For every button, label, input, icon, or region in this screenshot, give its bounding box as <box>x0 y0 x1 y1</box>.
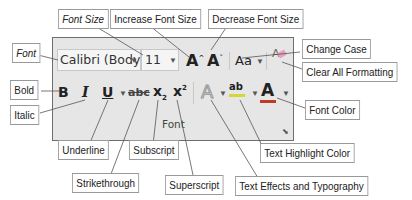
text-effects-button[interactable]: A <box>201 81 213 102</box>
bold-button[interactable]: B <box>58 84 69 100</box>
highlight-button[interactable]: ab <box>229 81 243 92</box>
callout-font-size: Font Size <box>58 9 108 29</box>
callout-text-effects: Text Effects and Typography <box>235 176 368 196</box>
callout-change-case: Change Case <box>302 39 371 59</box>
callout-font: Font <box>12 43 40 63</box>
clear-formatting-button[interactable]: A <box>272 47 286 60</box>
callout-font-color: Font Color <box>305 100 360 120</box>
font-size-value: 11 <box>145 52 161 67</box>
callout-decrease-font-size: Decrease Font Size <box>208 9 303 29</box>
underline-button[interactable]: U <box>102 84 113 100</box>
callout-italic: Italic <box>10 105 39 125</box>
separator <box>266 52 267 70</box>
dialog-launcher-icon[interactable]: ⬊ <box>282 127 289 136</box>
font-color-button[interactable]: A <box>261 80 274 100</box>
callout-subscript: Subscript <box>129 140 179 160</box>
underline-dropdown-icon[interactable]: ▼ <box>119 89 127 98</box>
separator <box>193 82 194 104</box>
callout-superscript: Superscript <box>165 175 224 195</box>
font-name-value: Calibri (Body) <box>60 52 141 67</box>
text-effects-dropdown-icon[interactable]: ▼ <box>219 89 227 98</box>
separator <box>229 52 230 70</box>
highlight-dropdown-icon[interactable]: ▼ <box>251 89 259 98</box>
font-name-dropdown-icon[interactable]: ▼ <box>130 56 138 65</box>
callout-underline: Underline <box>58 140 109 160</box>
italic-button[interactable]: I <box>82 84 89 100</box>
increase-font-size-button[interactable]: A^ <box>186 51 204 70</box>
callout-clear-all-formatting: Clear All Formatting <box>302 62 397 82</box>
subscript-button[interactable]: x2 <box>153 83 167 102</box>
strikethrough-button[interactable]: abc <box>128 86 150 99</box>
callout-text-highlight-color: Text Highlight Color <box>260 143 354 163</box>
callout-increase-font-size: Increase Font Size <box>110 9 201 29</box>
callout-bold: Bold <box>10 80 38 100</box>
change-case-button[interactable]: Aa <box>235 53 252 68</box>
font-color-bar <box>260 100 276 103</box>
superscript-button[interactable]: x2 <box>173 83 187 99</box>
change-case-dropdown-icon[interactable]: ▼ <box>256 57 264 66</box>
decrease-font-size-button[interactable]: Aˇ <box>207 51 223 70</box>
highlight-color-bar <box>229 94 245 97</box>
group-label: Font <box>162 118 185 130</box>
callout-strikethrough: Strikethrough <box>72 173 139 193</box>
font-size-dropdown-icon[interactable]: ▼ <box>169 56 177 65</box>
font-name-combobox[interactable]: Calibri (Body) <box>57 49 141 71</box>
font-color-dropdown-icon[interactable]: ▼ <box>282 89 290 98</box>
